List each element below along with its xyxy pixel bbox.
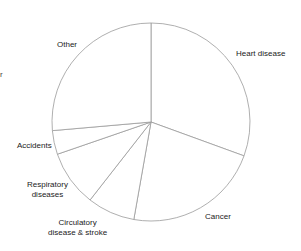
label-cancer: Cancer [205, 212, 231, 222]
label-heart-disease: Heart disease [236, 49, 285, 59]
label-circulatory: Circulatory disease & stroke [48, 218, 107, 238]
label-circulatory-line1: Circulatory [48, 218, 107, 228]
label-circulatory-line2: disease & stroke [48, 228, 107, 238]
cropped-label-fragment: r [0, 70, 3, 79]
label-respiratory-line1: Respiratory [27, 180, 68, 190]
pie-chart [0, 0, 301, 251]
label-respiratory: Respiratory diseases [27, 180, 68, 200]
label-accidents: Accidents [17, 141, 52, 151]
label-other: Other [57, 40, 77, 50]
label-respiratory-line2: diseases [27, 190, 68, 200]
